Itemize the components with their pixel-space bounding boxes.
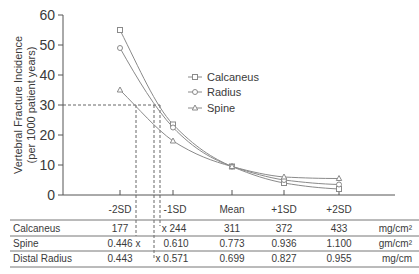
unit: mg/cm: [382, 253, 412, 264]
y-tick-label: 60: [39, 7, 55, 23]
cell: 0.955: [326, 253, 351, 264]
y-tick-label: 30: [39, 97, 55, 113]
cell: 0.443: [107, 253, 132, 264]
x-tick-label: +1SD: [271, 204, 296, 215]
x-tick-label: -2SD: [109, 204, 132, 215]
y-ticks: [58, 15, 63, 195]
y-axis-title: Vertebral Fracture Incidence (per 1000 p…: [12, 36, 37, 174]
row-label: Spine: [13, 238, 39, 249]
legend-label: Calcaneus: [207, 71, 259, 83]
radius-markers: [118, 46, 342, 188]
unit: mg/cm²: [379, 223, 413, 234]
table-row: Spine 0.446 x 0.610 0.773 0.936 1.100 gm…: [13, 238, 413, 249]
x-tick-label: -1SD: [164, 204, 187, 215]
cell: 311: [224, 223, 240, 234]
triangle-marker-icon: [192, 105, 197, 110]
cell: 0.827: [271, 253, 296, 264]
x-tick-label: Mean: [219, 204, 244, 215]
cell: 433: [331, 223, 348, 234]
x-ticks: [120, 190, 339, 195]
legend-item-spine: Spine: [188, 102, 235, 114]
cell: 0.936: [271, 238, 296, 249]
y-axis-title-line1: Vertebral Fracture Incidence: [12, 36, 24, 174]
fracture-incidence-chart: 60 50 40 30 20 10 0 Vertebral Fracture I…: [0, 0, 419, 274]
y-tick-label: 20: [39, 127, 55, 143]
row-label: Calcaneus: [13, 223, 60, 234]
y-axis-title-line2: (per 1000 patient years): [25, 47, 37, 164]
legend-label: Spine: [207, 102, 235, 114]
square-marker-icon: [193, 75, 198, 80]
legend-label: Radius: [207, 86, 242, 98]
cell: 372: [276, 223, 293, 234]
y-tick-labels: 60 50 40 30 20 10 0: [39, 7, 55, 203]
cell: 1.100: [326, 238, 351, 249]
table-row: Distal Radius 0.443 x 0.571 0.699 0.827 …: [13, 253, 412, 264]
cell: 177: [112, 223, 129, 234]
cell: x 0.571: [156, 253, 189, 264]
unit: gm/cm²: [379, 238, 413, 249]
circle-marker-icon: [193, 90, 198, 95]
legend: Calcaneus Radius Spine: [188, 71, 259, 114]
cell: 0.699: [219, 253, 244, 264]
table-row: Calcaneus 177 x 244 311 372 433 mg/cm²: [13, 223, 413, 234]
cell: 0.610: [163, 238, 188, 249]
bmd-table: Calcaneus 177 x 244 311 372 433 mg/cm² S…: [13, 223, 413, 264]
cell: x 244: [162, 223, 187, 234]
x-tick-label: +2SD: [326, 204, 351, 215]
reference-dashed-lines: [63, 105, 160, 258]
y-tick-label: 50: [39, 37, 55, 53]
legend-item-calcaneus: Calcaneus: [188, 71, 259, 83]
legend-item-radius: Radius: [188, 86, 242, 98]
y-tick-label: 10: [39, 157, 55, 173]
cell: 0.773: [219, 238, 244, 249]
cell: 0.446 x: [108, 238, 141, 249]
row-label: Distal Radius: [13, 253, 72, 264]
y-tick-label: 40: [39, 67, 55, 83]
y-tick-label: 0: [47, 187, 55, 203]
